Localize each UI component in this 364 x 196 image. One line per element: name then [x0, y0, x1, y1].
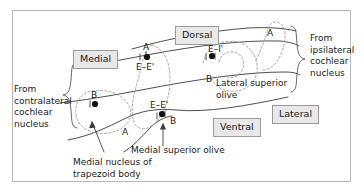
orientation-label-medial: Medial — [73, 50, 118, 69]
input-caption-ipsilateral: From ipsilateral cochlear nucleus — [310, 33, 354, 79]
orientation-label-ventral: Ventral — [213, 118, 261, 137]
orientation-label-dorsal: Dorsal — [175, 26, 219, 45]
brace-ipsilateral — [291, 26, 305, 92]
marker-mntb-b: B — [91, 91, 97, 100]
marker-mso-upper-a: A — [143, 43, 149, 52]
marker-lso-response: E–I' — [208, 45, 223, 54]
input-caption-contralateral: From contralateral cochlear nucleus — [14, 84, 72, 130]
orientation-label-lateral: Lateral — [272, 105, 319, 124]
marker-mso-lower-b: B — [170, 117, 176, 126]
structure-caption-lso: Lateral superior olive — [216, 78, 287, 101]
marker-mso-lower-response: E–E' — [150, 101, 168, 110]
marker-lso-region-a: A — [267, 29, 273, 38]
marker-mso-upper-response: E–E' — [136, 63, 154, 72]
marker-lso-region-b: B — [206, 75, 212, 84]
structure-caption-mso: Medial superior olive — [131, 145, 225, 157]
marker-mntb-a: A — [122, 128, 128, 137]
structure-caption-mntb: Medial nucleus of trapezoid body — [73, 157, 152, 180]
figure-root: Dorsal Medial Ventral Lateral From contr… — [0, 0, 364, 196]
